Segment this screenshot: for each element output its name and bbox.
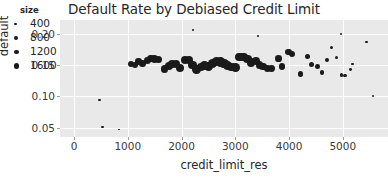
scatter-point	[155, 56, 162, 63]
x-tick-mark	[343, 137, 344, 140]
scatter-point	[289, 51, 295, 57]
x-axis-label: credit_limit_res	[60, 158, 388, 172]
scatter-point	[349, 68, 352, 71]
legend-marker-dot	[14, 63, 19, 68]
scatter-point	[351, 63, 354, 66]
legend-label: 1600	[30, 59, 57, 71]
gridline-vertical	[74, 20, 75, 137]
x-tick-mark	[235, 137, 236, 140]
x-tick-label: 1000	[106, 140, 150, 152]
legend-label: 800	[30, 31, 50, 43]
legend-entry: 1600	[8, 59, 70, 73]
legend-entry: 1200	[8, 45, 70, 59]
scatter-point	[340, 33, 342, 35]
scatter-point	[315, 64, 320, 69]
x-tick-mark	[289, 137, 290, 140]
x-tick-label: 4000	[267, 140, 311, 152]
x-tick-label: 0	[52, 140, 96, 152]
x-tick-mark	[74, 137, 75, 140]
legend-entry: 400	[8, 17, 70, 31]
scatter-point	[305, 54, 310, 59]
scatter-point	[365, 41, 367, 43]
x-tick-mark	[182, 137, 183, 140]
legend-marker-dot	[14, 36, 18, 40]
plot-area	[60, 20, 388, 137]
scatter-point	[192, 29, 194, 31]
scatter-point	[372, 95, 374, 97]
legend-title: size	[20, 5, 39, 15]
legend-entry: 800	[8, 31, 70, 45]
gridline-horizontal	[60, 96, 388, 97]
gridline-vertical	[289, 20, 290, 137]
scatter-point	[257, 35, 259, 37]
scatter-point	[320, 70, 325, 75]
y-tick-mark	[57, 128, 60, 129]
scatter-point	[268, 65, 275, 72]
x-tick-label: 2000	[160, 140, 204, 152]
scatter-point	[325, 58, 329, 62]
chart-figure: Default Rate by Debiased Credit Limit 0.…	[0, 0, 388, 180]
x-tick-label: 3000	[213, 140, 257, 152]
gridline-vertical	[182, 20, 183, 137]
scatter-point	[309, 62, 314, 67]
gridline-vertical	[128, 20, 129, 137]
y-tick-label: 0.05	[14, 122, 55, 134]
gridline-horizontal	[60, 128, 388, 129]
legend-label: 400	[30, 17, 50, 29]
gridline-vertical	[235, 20, 236, 137]
legend-marker-dot	[14, 50, 19, 55]
scatter-point	[335, 56, 339, 60]
scatter-point	[98, 99, 101, 102]
scatter-point	[343, 74, 346, 77]
x-tick-mark	[128, 137, 129, 140]
scatter-point	[231, 63, 240, 72]
scatter-point	[330, 46, 334, 50]
scatter-point	[279, 63, 285, 69]
gridline-vertical	[343, 20, 344, 137]
scatter-point	[298, 71, 304, 77]
scatter-point	[176, 64, 184, 72]
y-tick-label: 0.10	[14, 90, 55, 102]
legend-label: 1200	[30, 45, 57, 57]
legend-marker-dot	[14, 23, 17, 26]
x-tick-label: 5000	[321, 140, 365, 152]
scatter-point	[118, 129, 120, 131]
y-tick-mark	[57, 96, 60, 97]
gridline-horizontal	[60, 34, 388, 35]
size-legend: size 40080012001600	[8, 5, 70, 91]
scatter-point	[275, 55, 282, 62]
